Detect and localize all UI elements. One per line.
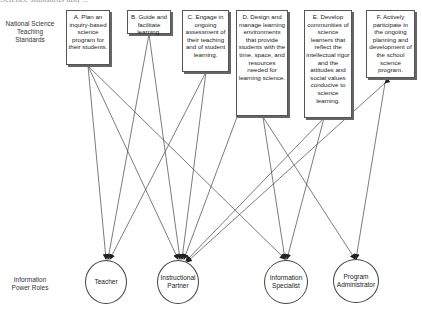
role-instructional-partner-label: Instructional Partner — [158, 274, 198, 290]
arrow-f-program-administrator — [356, 83, 385, 259]
role-teacher-label: Teacher — [94, 278, 117, 286]
standard-box-d: D. Design and manage learning environmen… — [236, 10, 288, 116]
standard-box-f: F. Actively participate in the ongoing p… — [366, 10, 415, 78]
arrow-b-teacher — [108, 34, 149, 259]
standard-a-label: A. Plan an inquiry-based science program… — [69, 13, 108, 50]
standard-b-label: B. Guide and facilitate learning. — [131, 13, 167, 35]
role-information-specialist: Information Specialist — [264, 260, 308, 304]
standard-box-e: E. Develop communities of science learne… — [304, 10, 352, 118]
standard-d-label: D. Design and manage learning environmen… — [239, 13, 285, 81]
arrow-d-information-specialist — [263, 117, 285, 259]
arrow-b-instructional-partner — [149, 34, 180, 259]
standard-box-c: C. Engage in ongoing assessment of their… — [182, 10, 229, 72]
role-program-administrator: Program Administrator — [333, 259, 379, 303]
arrow-d-instructional-partner — [184, 117, 237, 259]
role-instructional-partner: Instructional Partner — [157, 260, 199, 304]
standard-box-a: A. Plan an inquiry-based science program… — [66, 10, 110, 65]
standard-e-label: E. Develop communities of science learne… — [306, 13, 349, 104]
role-program-administrator-label: Program Administrator — [334, 273, 378, 289]
role-teacher: Teacher — [85, 260, 127, 304]
arrow-a-instructional-partner — [88, 66, 178, 259]
standard-f-label: F. Actively participate in the ongoing p… — [369, 13, 411, 73]
standard-c-label: C. Engage in ongoing assessment of their… — [186, 13, 226, 58]
arrow-e-instructional-partner — [186, 118, 324, 261]
arrow-e-information-specialist — [287, 118, 324, 259]
arrow-d-program-administrator — [263, 117, 355, 259]
role-information-specialist-label: Information Specialist — [265, 274, 307, 290]
standard-box-b: B. Guide and facilitate learning. — [127, 10, 171, 34]
arrow-c-instructional-partner — [182, 72, 206, 259]
arrow-a-teacher — [88, 66, 106, 259]
